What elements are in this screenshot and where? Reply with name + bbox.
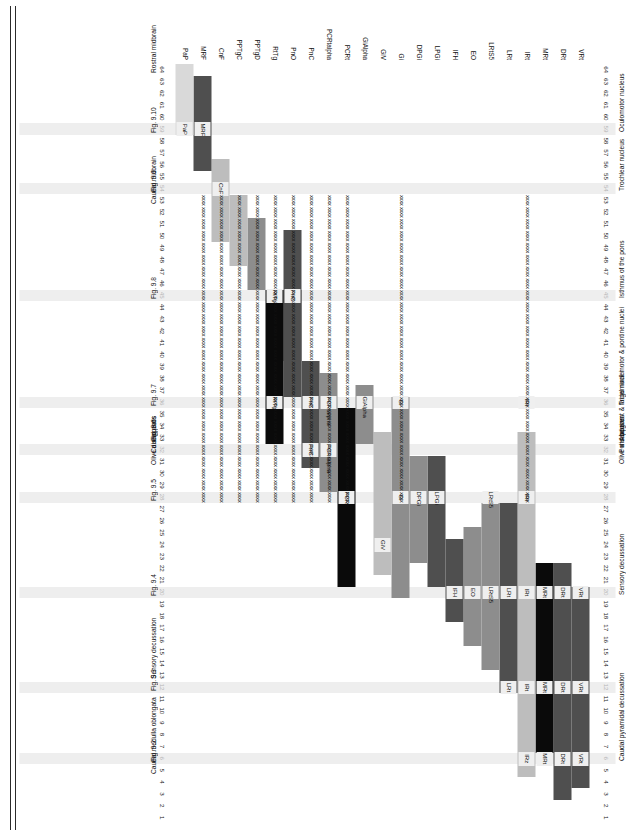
x-mark: xxxx [217,373,224,384]
bar-chip-vrt: VRt [572,586,588,600]
x-mark: xxxx [235,278,242,289]
x-mark: xxxx [199,218,206,229]
x-mark: xxxx [325,195,332,206]
section-highlight-band [19,183,615,194]
x-mark: xxxx [217,266,224,277]
x-mark: xxxx [325,397,332,408]
section-number-label: 37 [602,385,609,396]
x-mark: xxxx [271,492,278,503]
x-mark: xxxx [289,444,296,455]
x-mark: xxxx [289,337,296,348]
x-mark: xxxx [307,456,314,467]
bar-chip-dpgi: DPGi [410,491,426,505]
section-number-label: 46 [602,278,609,289]
section-number-label: 25 [158,527,165,538]
x-mark: xxxx [307,420,314,431]
x-mark: xxxx [217,420,224,431]
x-mark: xxxx [397,349,404,360]
x-mark: xxxx [235,325,242,336]
x-mark: xxxx [523,456,530,467]
section-number-label: 7 [602,741,609,752]
section-number-label: 10 [602,705,609,716]
section-number-label: 58 [602,135,609,146]
x-mark: xxxx [325,266,332,277]
section-number-label: 28 [158,492,165,503]
x-mark: xxxx [307,432,314,443]
rotated-figure-container: VRtDRtMRtIRtLRtLRtS5EOIFHLPGiDPGiGiGiVGi… [0,0,633,836]
x-mark: xxxx [523,278,530,289]
bar-chip-lrts5: LRtS5 [482,491,498,505]
section-number-label: 19 [602,598,609,609]
x-mark: xxxx [217,456,224,467]
section-number-label: 36 [602,397,609,408]
x-mark: xxxx [199,408,206,419]
bar-chip-irz: IRz [518,752,534,766]
event-annotation: Isthmus of the pons [617,241,625,299]
x-mark: xxxx [235,195,242,206]
section-number-label: 21 [602,575,609,586]
bar-chip-pap: PaP [176,122,192,136]
section-number-label: 61 [158,100,165,111]
x-mark: xxxx [289,266,296,277]
x-mark: xxxx [397,254,404,265]
section-number-label: 15 [158,646,165,657]
row-label-gi: Gi [396,0,404,60]
bar-chip-mrt: MRt [536,752,552,766]
x-mark: xxxx [325,373,332,384]
x-mark: xxxx [271,444,278,455]
section-number-label: 35 [158,408,165,419]
x-mark: xxxx [253,361,260,372]
x-mark: xxxx [235,349,242,360]
x-mark: xxxx [325,218,332,229]
section-number-label: 51 [158,218,165,229]
section-number-label: 61 [602,100,609,111]
x-mark: xxxx [523,444,530,455]
x-mark: xxxx [343,207,350,218]
bar-chip-vrt: VRt [572,752,588,766]
row-label-pptgd: PPTgD [252,0,260,60]
row-label-pptgc: PPTgC [234,0,242,60]
x-mark: xxxx [397,278,404,289]
x-mark: xxxx [343,337,350,348]
section-number-label: 53 [158,195,165,206]
x-mark: xxxx [271,254,278,265]
bar-chip-drt: DRt [554,681,570,695]
row-label-mrt: MRt [540,0,548,60]
section-number-label: 29 [602,480,609,491]
x-mark: xxxx [325,313,332,324]
x-mark: xxxx [271,266,278,277]
x-mark: xxxx [199,420,206,431]
section-number-label: 64 [158,64,165,75]
x-mark: xxxx [253,302,260,313]
bar-chip-vrt: VRt [572,681,588,695]
x-mark: xxxx [307,290,314,301]
x-mark: xxxx [343,195,350,206]
x-mark: xxxx [253,444,260,455]
x-mark: xxxx [397,480,404,491]
x-mark: xxxx [235,302,242,313]
x-mark: xxxx [397,397,404,408]
x-mark: xxxx [523,385,530,396]
event-annotation: Sensory decussation [617,534,625,595]
x-mark: xxxx [253,278,260,289]
event-annotation: Olive disappears [617,415,625,464]
section-number-label: 50 [602,230,609,241]
x-mark: xxxx [343,218,350,229]
section-number-label: 45 [602,290,609,301]
row-label-pap: PaP [180,0,188,60]
section-number-label: 62 [158,88,165,99]
x-mark: xxxx [235,444,242,455]
section-number-label: 43 [158,313,165,324]
section-number-label: 52 [158,207,165,218]
x-mark: xxxx [397,432,404,443]
section-number-label: 14 [602,658,609,669]
row-label-pnc: PnC [306,0,314,60]
x-mark: xxxx [235,313,242,324]
section-number-label: 5 [158,765,165,776]
x-mark: xxxx [235,373,242,384]
section-number-label: 8 [158,729,165,740]
section-number-label: 13 [158,670,165,681]
x-mark: xxxx [397,456,404,467]
x-mark: xxxx [235,218,242,229]
x-mark: xxxx [253,373,260,384]
